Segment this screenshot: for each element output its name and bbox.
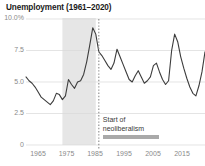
annotation-line-1: Start of xyxy=(103,116,144,125)
ytick-label-2-5: 2.5 xyxy=(0,109,24,116)
xtick-label-2005: 2005 xyxy=(140,150,166,157)
marker-annotation: Start of neoliberalism xyxy=(103,116,144,133)
xtick-label-1995: 1995 xyxy=(111,150,137,157)
ytick-label-0: 0 xyxy=(0,141,24,148)
unemployment-line-series xyxy=(26,28,205,105)
ytick-label-5-0: 5.0 xyxy=(0,78,24,85)
redaction-bar xyxy=(103,135,159,139)
chart-plot-area xyxy=(0,0,205,166)
xtick-label-2015: 2015 xyxy=(169,150,195,157)
xtick-label-1975: 1975 xyxy=(54,150,80,157)
ytick-label-10: 10.0% xyxy=(0,14,24,21)
chart-figure: Unemployment (1961–2020) 10.0% 7.5 5.0 2… xyxy=(0,0,205,166)
xtick-label-1965: 1965 xyxy=(25,150,51,157)
annotation-line-2: neoliberalism xyxy=(103,125,144,134)
ytick-label-7-5: 7.5 xyxy=(0,46,24,53)
xtick-label-1985: 1985 xyxy=(82,150,108,157)
